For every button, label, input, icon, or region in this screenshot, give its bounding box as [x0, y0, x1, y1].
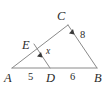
figure-canvas: A B C D E 5 6 8 x [0, 0, 111, 86]
length-label-AD: 5 [28, 71, 33, 82]
vertex-label-C: C [57, 9, 66, 23]
length-label-ED: x [45, 46, 51, 56]
vertex-label-E: E [21, 38, 30, 52]
side-AC [12, 25, 68, 68]
vertex-label-A: A [3, 71, 12, 85]
length-label-DB: 6 [70, 71, 75, 82]
geometry-figure: A B C D E 5 6 8 x [0, 0, 111, 86]
vertex-label-D: D [45, 71, 55, 85]
length-label-CB: 8 [80, 29, 85, 40]
vertex-label-B: B [94, 71, 102, 85]
